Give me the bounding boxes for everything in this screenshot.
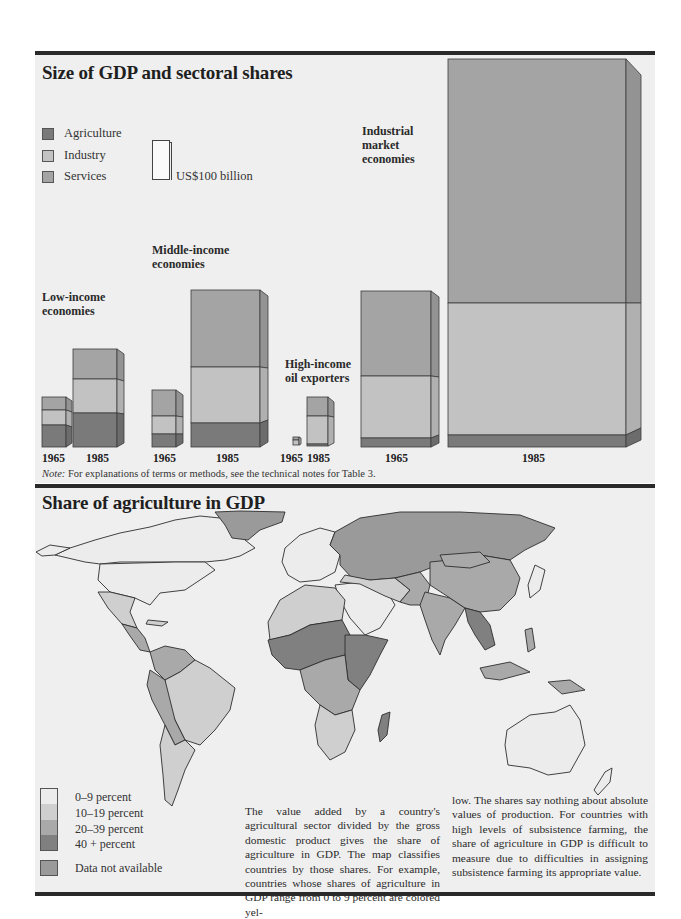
map-legend-swatches (40, 788, 58, 851)
region-southeast-asia (465, 608, 495, 650)
region-papua-new-guinea (548, 680, 585, 694)
region-caribbean (146, 620, 168, 626)
region-new-zealand (594, 768, 612, 795)
explanation-column-1: The value added by a country's agricultu… (245, 804, 440, 919)
region-europe (282, 528, 340, 582)
map-legend-label: Data not available (75, 861, 162, 876)
region-madagascar (378, 712, 390, 742)
region-mexico (98, 592, 137, 628)
region-philippines (525, 628, 535, 652)
region-australia (505, 705, 585, 775)
map-legend-swatch-na (40, 860, 58, 876)
map-legend-label: 40 + percent (75, 837, 135, 852)
explanation-column-2: low. The shares say nothing about absolu… (452, 793, 648, 879)
region-indonesia (480, 662, 530, 680)
region-japan (528, 565, 545, 598)
region-horn-east-africa (345, 635, 388, 690)
region-central-america (122, 624, 150, 652)
map-legend-label: 20–39 percent (75, 822, 143, 837)
map-legend-label: 10–19 percent (75, 806, 143, 821)
map-legend-label: 0–9 percent (75, 790, 131, 805)
